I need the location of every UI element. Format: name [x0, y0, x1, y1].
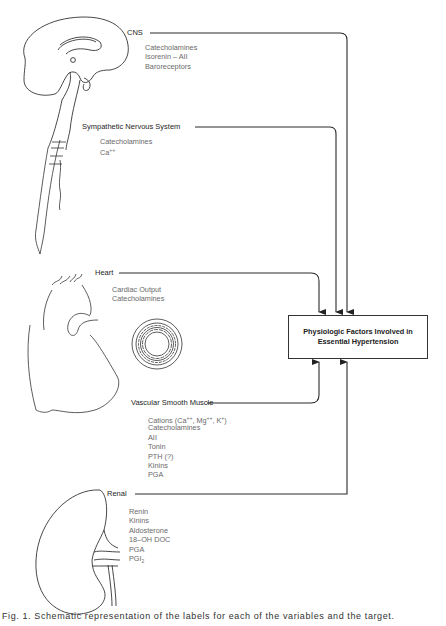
source-label-renal: Renal	[107, 490, 127, 498]
figure-caption: Fig. 1. Schematic representation of the …	[2, 611, 395, 621]
source-items-cns: Catecholamines Isorenin – AII Barorecept…	[145, 43, 197, 71]
item: Ca++	[100, 146, 152, 155]
item: Cations (Ca++, Mg++, K+)	[148, 414, 227, 423]
target-box: Physiologic Factors Involved in Essentia…	[288, 315, 428, 359]
item: Kinins	[148, 461, 227, 470]
kidney-illustration	[36, 490, 120, 614]
item: Catecholamines	[145, 43, 197, 52]
item: Catecholamines	[100, 137, 152, 146]
item: PGI2	[129, 554, 170, 563]
item: Kinins	[129, 516, 170, 525]
item: AII	[148, 433, 227, 442]
item: Baroreceptors	[145, 62, 197, 71]
item: Renin	[129, 507, 170, 516]
heart-illustration	[28, 274, 119, 413]
source-items-vascular: Cations (Ca++, Mg++, K+) Catecholamines …	[148, 414, 227, 480]
item: Catecholamines	[112, 294, 164, 303]
source-items-renal: Renin Kinins Aldosterone 18–OH DOC PGA P…	[129, 507, 170, 563]
item: 18–OH DOC	[129, 535, 170, 544]
item: Tonin	[148, 442, 227, 451]
target-line-2: Essential Hypertension	[318, 337, 399, 347]
source-label-vascular-smooth-muscle: Vascular Smooth Muscle	[131, 399, 213, 407]
source-items-heart: Cardiac Output Catecholamines	[112, 285, 164, 304]
vessel-cross-section-illustration	[132, 319, 182, 369]
diagram-canvas	[0, 0, 446, 626]
source-label-heart: Heart	[95, 269, 113, 277]
item: Isorenin – AII	[145, 52, 197, 61]
item: PGA	[129, 545, 170, 554]
item: PTH (?)	[148, 452, 227, 461]
source-label-cns: CNS	[127, 29, 143, 37]
spinal-cord-illustration	[35, 140, 66, 254]
item: Cardiac Output	[112, 285, 164, 294]
item: Aldosterone	[129, 526, 170, 535]
source-label-sympathetic-nervous-system: Sympathetic Nervous System	[82, 123, 180, 131]
source-items-sympathetic: Catecholamines Ca++	[100, 137, 152, 156]
target-line-1: Physiologic Factors Involved in	[303, 327, 412, 337]
item: PGA	[148, 470, 227, 479]
